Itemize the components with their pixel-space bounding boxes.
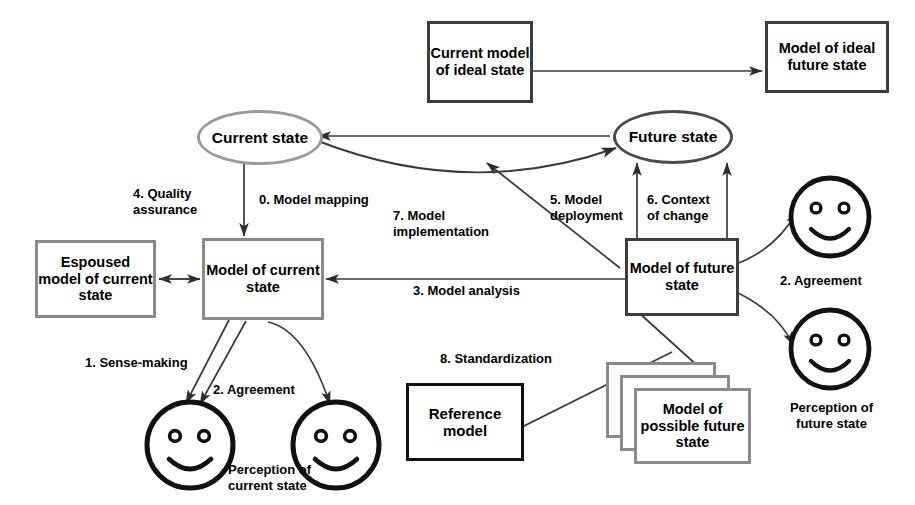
- node-future-state[interactable]: Future state: [613, 110, 733, 164]
- edge-label-text: 5. Model deployment: [550, 192, 623, 223]
- node-label: Model of ideal future state: [768, 40, 886, 74]
- node-label: Model of current state: [205, 262, 321, 296]
- caption-text: Perception of future state: [790, 400, 873, 431]
- edge-label-step2-right: 2. Agreement: [780, 273, 895, 289]
- edge-label-step2-left: 2. Agreement: [213, 382, 328, 398]
- node-model-of-possible-future-state-stack[interactable]: Model of possible future state: [606, 362, 751, 462]
- stack-sheet-front[interactable]: Model of possible future state: [634, 388, 751, 464]
- edge-label-step1: 1. Sense-making: [85, 355, 210, 371]
- edge-label-step3: 3. Model analysis: [413, 283, 563, 299]
- edge-label-text: 8. Standardization: [440, 351, 552, 366]
- edge-label-text: 6. Context of change: [647, 192, 710, 223]
- node-label: Future state: [629, 128, 718, 146]
- caption-text: Perception of current state: [228, 462, 311, 493]
- node-model-of-future-state[interactable]: Model of future state: [625, 238, 739, 316]
- node-espoused-model-of-current-state[interactable]: Espoused model of current state: [35, 240, 156, 318]
- edge-agreement-right-lower: [736, 292, 793, 345]
- node-current-state[interactable]: Current state: [197, 110, 323, 165]
- edge-label-text: 0. Model mapping: [259, 192, 369, 207]
- edge-label-text: 2. Agreement: [213, 382, 295, 397]
- smiley-perception-current-1: [142, 397, 238, 493]
- node-label: Espoused model of current state: [38, 254, 153, 304]
- edge-label-step7: 7. Model implementation: [393, 208, 513, 240]
- edge-label-step5: 5. Model deployment: [550, 192, 632, 224]
- node-reference-model[interactable]: Reference model: [406, 383, 524, 461]
- node-model-of-current-state[interactable]: Model of current state: [202, 238, 324, 320]
- node-label: Reference model: [409, 405, 521, 440]
- edge-label-step8: 8. Standardization: [440, 351, 615, 367]
- smiley-agreement-future: [786, 173, 874, 261]
- edge-label-text: 1. Sense-making: [85, 355, 188, 370]
- caption-perception-current: Perception of current state: [228, 462, 348, 494]
- node-model-of-ideal-future-state[interactable]: Model of ideal future state: [765, 21, 889, 93]
- edge-label-text: 4. Quality assurance: [133, 186, 197, 217]
- node-label: Model of future state: [628, 260, 736, 294]
- edge-label-text: 3. Model analysis: [413, 283, 520, 298]
- edge-label-text: 7. Model implementation: [393, 208, 489, 239]
- edge-label-step4: 4. Quality assurance: [133, 186, 225, 218]
- caption-perception-future: Perception of future state: [774, 400, 889, 432]
- edge-current-to-future-curve: [318, 141, 616, 172]
- diagram-canvas: Current model of ideal state Model of id…: [0, 0, 915, 505]
- node-label: Current state: [212, 129, 308, 147]
- smiley-perception-future: [786, 305, 874, 393]
- edge-label-text: 2. Agreement: [780, 273, 862, 288]
- node-label: Model of possible future state: [637, 401, 748, 451]
- edge-label-step0: 0. Model mapping: [259, 192, 399, 208]
- edge-label-step6: 6. Context of change: [647, 192, 721, 224]
- node-label: Current model of ideal state: [430, 45, 530, 79]
- node-current-model-of-ideal-state[interactable]: Current model of ideal state: [427, 21, 533, 103]
